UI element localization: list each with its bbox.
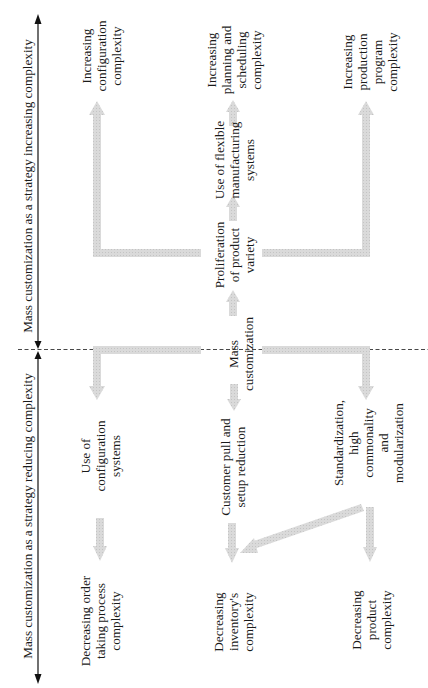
node-increasing-production-program-complexity: Increasing production program complexity [340,32,400,91]
arrowhead-up-icon [35,351,42,359]
arrow-to-inventory-complexity [225,523,239,563]
diagram-canvas: Mass customization as a strategy increas… [0,0,428,688]
node-flexible-manufacturing: Use of flexible manufacturing systems [212,121,257,199]
arrow-to-configuration-complexity [89,101,201,257]
arrowhead-up-icon [35,14,42,24]
arrow-to-standardization [262,346,374,400]
node-decreasing-product-complexity: Decreasing product complexity [349,590,394,649]
arrow-standardization-to-inventory [240,504,364,553]
arrow-to-production-program-complexity [262,101,374,257]
axis-label-reducing: Mass customization as a strategy reducin… [20,373,35,659]
node-standardization-modularization: Standardization, high commonality and mo… [331,400,406,486]
diagram-graphics [0,0,428,688]
complexity-axis [35,14,42,684]
node-decreasing-order-taking-complexity: Decreasing order taking process complexi… [78,576,123,666]
node-increasing-planning-complexity: Increasing planning and scheduling compl… [204,26,264,95]
node-mass-customization: Mass customization [226,317,256,391]
node-proliferation-product-variety: Proliferation of product variety [212,222,257,289]
arrowhead-down-icon [35,341,42,349]
arrow-to-product-complexity [363,507,377,562]
node-increasing-configuration-complexity: Increasing configuration complexity [79,20,124,91]
node-customer-pull-setup-reduction: Customer pull and setup reduction [218,418,248,515]
node-decreasing-inventory-complexity: Decreasing inventory's complexity [211,592,256,651]
node-use-of-configuration-systems: Use of configuration systems [78,420,123,491]
arrow-to-order-taking-complexity [93,518,107,561]
arrow-to-configuration-systems [89,346,201,400]
arrowhead-down-icon [35,674,42,684]
axis-label-increasing: Mass customization as a strategy increas… [20,39,35,333]
arrow-to-product-variety [226,290,240,316]
